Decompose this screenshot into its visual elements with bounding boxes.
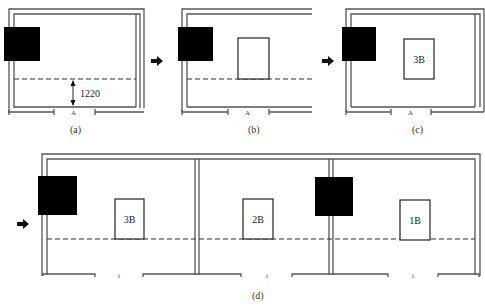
panel-b-center-mark: A: [245, 109, 250, 117]
panel-a-center-mark: A: [71, 109, 76, 117]
arrow-up-icon: [71, 80, 76, 86]
panel-d-box-3b-label: 3B: [124, 214, 136, 225]
panel-b-empty-box: [238, 38, 269, 79]
panel-d-black-block-left: [38, 176, 77, 215]
panel-d-divider-2: [329, 159, 333, 275]
panel-c-center-mark: A: [408, 109, 413, 117]
panel-d-box-1b-label: 1B: [409, 215, 421, 226]
panel-a-dimension-label: 1220: [80, 88, 100, 99]
panel-b: A (b): [178, 9, 312, 136]
panel-c-caption: (c): [412, 124, 423, 136]
panel-d: i i i 3B 2B 1B (d): [17, 154, 480, 302]
arrow-down-icon: [71, 100, 76, 106]
panel-c-black-block: [342, 27, 376, 61]
panel-d-center-mark: i: [412, 272, 414, 280]
diagram-canvas: A 1220 (a) A (b): [0, 0, 485, 308]
panel-a-caption: (a): [70, 124, 81, 136]
panel-a: A 1220 (a): [4, 9, 144, 136]
panel-c: A 3B (c): [342, 9, 484, 136]
right-arrow-icon: [17, 219, 29, 229]
right-arrow-icon: [322, 56, 334, 66]
panel-d-box-2b-label: 2B: [252, 214, 264, 225]
panel-d-divider-1: [195, 159, 199, 275]
panel-c-box-label: 3B: [413, 54, 425, 65]
panel-d-caption: (d): [252, 290, 264, 302]
panel-d-center-mark: i: [266, 272, 268, 280]
panel-a-black-block: [4, 27, 40, 61]
panel-d-black-block-right: [315, 177, 353, 216]
panel-b-black-block: [178, 27, 213, 61]
panel-d-center-mark: i: [118, 272, 120, 280]
right-arrow-icon: [151, 56, 163, 66]
panel-b-caption: (b): [248, 124, 260, 136]
